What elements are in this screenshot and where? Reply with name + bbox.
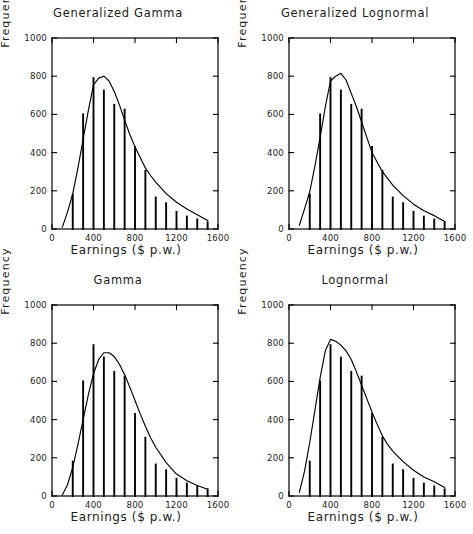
svg-text:1200: 1200 <box>165 233 188 243</box>
svg-text:0: 0 <box>41 491 47 501</box>
svg-text:800: 800 <box>267 71 284 81</box>
svg-text:800: 800 <box>363 233 380 243</box>
svg-text:1600: 1600 <box>444 233 467 243</box>
svg-text:800: 800 <box>30 338 47 348</box>
svg-text:600: 600 <box>267 109 284 119</box>
svg-text:600: 600 <box>30 376 47 386</box>
x-axis-label: Earnings ($ p.w.) <box>263 510 463 524</box>
svg-text:800: 800 <box>363 500 380 510</box>
svg-text:200: 200 <box>267 453 284 463</box>
svg-text:400: 400 <box>30 148 47 158</box>
figure-canvas: Generalized Gamma 0200400600800100004008… <box>0 0 473 534</box>
panel-gamma: Gamma 02004006008001000040080012001600 F… <box>0 267 236 534</box>
svg-text:0: 0 <box>286 500 292 510</box>
plot-area: 02004006008001000040080012001600 <box>0 267 236 534</box>
svg-text:400: 400 <box>322 233 339 243</box>
y-axis-label: Frequency <box>236 221 249 341</box>
svg-text:1000: 1000 <box>261 33 284 43</box>
svg-text:800: 800 <box>126 233 143 243</box>
svg-text:400: 400 <box>85 233 102 243</box>
svg-text:800: 800 <box>267 338 284 348</box>
svg-text:800: 800 <box>126 500 143 510</box>
svg-text:200: 200 <box>30 186 47 196</box>
svg-text:400: 400 <box>30 415 47 425</box>
svg-text:0: 0 <box>41 224 47 234</box>
panel-lognormal: Lognormal 020040060080010000400800120016… <box>237 267 473 534</box>
y-axis-label: Frequency <box>0 221 12 341</box>
svg-text:800: 800 <box>30 71 47 81</box>
x-axis-label: Earnings ($ p.w.) <box>263 243 463 257</box>
svg-text:200: 200 <box>30 453 47 463</box>
svg-text:1600: 1600 <box>444 500 467 510</box>
svg-text:1600: 1600 <box>207 500 230 510</box>
svg-text:0: 0 <box>278 491 284 501</box>
svg-text:0: 0 <box>49 233 55 243</box>
svg-text:0: 0 <box>286 233 292 243</box>
y-axis-label: Frequency <box>236 0 249 74</box>
svg-text:0: 0 <box>278 224 284 234</box>
svg-text:0: 0 <box>49 500 55 510</box>
svg-text:1000: 1000 <box>24 300 47 310</box>
svg-text:1200: 1200 <box>402 500 425 510</box>
svg-text:600: 600 <box>267 376 284 386</box>
svg-text:1000: 1000 <box>24 33 47 43</box>
svg-text:1000: 1000 <box>261 300 284 310</box>
svg-text:400: 400 <box>85 500 102 510</box>
plot-area: 02004006008001000040080012001600 <box>0 0 236 267</box>
svg-text:400: 400 <box>267 415 284 425</box>
svg-text:600: 600 <box>30 109 47 119</box>
y-axis-label: Frequency <box>0 0 12 74</box>
plot-area: 02004006008001000040080012001600 <box>237 0 473 267</box>
x-axis-label: Earnings ($ p.w.) <box>26 510 226 524</box>
plot-area: 02004006008001000040080012001600 <box>237 267 473 534</box>
svg-text:400: 400 <box>322 500 339 510</box>
panel-generalized-lognormal: Generalized Lognormal 020040060080010000… <box>237 0 473 267</box>
panel-generalized-gamma: Generalized Gamma 0200400600800100004008… <box>0 0 236 267</box>
svg-text:1200: 1200 <box>165 500 188 510</box>
x-axis-label: Earnings ($ p.w.) <box>26 243 226 257</box>
svg-text:400: 400 <box>267 148 284 158</box>
svg-text:200: 200 <box>267 186 284 196</box>
svg-text:1200: 1200 <box>402 233 425 243</box>
svg-text:1600: 1600 <box>207 233 230 243</box>
